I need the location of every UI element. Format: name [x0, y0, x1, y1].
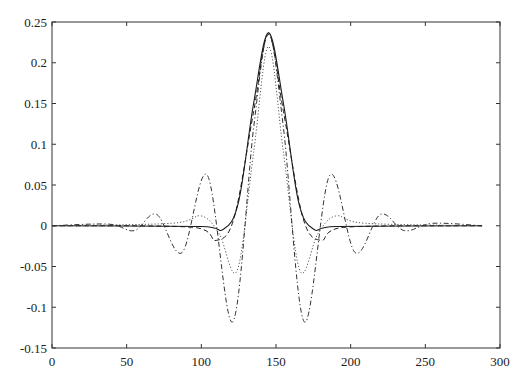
- series-dash-dot: [52, 34, 482, 322]
- y-tick-label: -0.15: [20, 341, 47, 356]
- y-tick-label: 0.15: [24, 96, 47, 111]
- y-tick-label: 0: [41, 218, 48, 233]
- series-dotted: [52, 46, 482, 273]
- axes-box: [52, 22, 500, 348]
- x-tick-label: 250: [416, 354, 436, 369]
- y-tick-label: 0.2: [31, 55, 47, 70]
- line-chart: 050100150200250300 -0.15-0.1-0.0500.050.…: [0, 0, 526, 380]
- plot-area: [52, 33, 482, 323]
- x-tick-label: 100: [192, 354, 212, 369]
- series-dashed: [52, 34, 482, 240]
- y-tick-label: 0.05: [24, 178, 47, 193]
- y-tick-label: 0.1: [31, 137, 47, 152]
- series-solid: [52, 33, 482, 231]
- x-tick-label: 300: [490, 354, 510, 369]
- x-tick-label: 150: [266, 354, 286, 369]
- x-tick-label: 50: [120, 354, 133, 369]
- y-tick-label: 0.25: [24, 15, 47, 30]
- y-tick-label: -0.1: [26, 300, 47, 315]
- x-tick-label: 0: [49, 354, 56, 369]
- x-tick-label: 200: [341, 354, 361, 369]
- y-tick-label: -0.05: [20, 259, 47, 274]
